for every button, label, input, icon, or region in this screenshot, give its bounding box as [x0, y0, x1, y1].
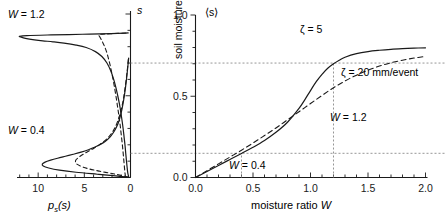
right-w04-var: W — [229, 159, 239, 171]
right-x-tick-label: 2.0 — [418, 182, 433, 194]
right-x-tick-label: 0.0 — [188, 182, 203, 194]
right-y-tick-label: 0.0 — [173, 171, 188, 183]
right-corner-label: ⟨s⟩ — [205, 6, 218, 18]
right-w04-value: = 0.4 — [239, 159, 266, 171]
left-w12-value: = 1.2 — [18, 8, 45, 20]
right-x-tick-label: 1.5 — [361, 182, 376, 194]
right-x-tick-label: 1.0 — [303, 182, 318, 194]
right-w12-guide-label: W = 1.2 — [330, 111, 367, 123]
right-y-tick-label: 0.5 — [173, 90, 188, 102]
left-y-axis-label: s — [137, 4, 142, 16]
zeta20-label: ζ = 20 mm/event — [341, 66, 418, 78]
right-x-axis-label-text: moisture ratio — [251, 199, 321, 211]
right-w12-value: = 1.2 — [340, 111, 367, 123]
left-x-axis-label: ps(s) — [48, 199, 71, 214]
figure-container: 1050 0.00.51.00.00.51.01.52.0 W = 1.2 W … — [0, 0, 446, 223]
left-w04-var: W — [8, 124, 18, 136]
left-w12-label: W = 1.2 — [8, 8, 45, 20]
right-w04-guide-label: W = 0.4 — [229, 159, 266, 171]
right-mean-panel: 0.00.51.00.00.51.01.52.0 — [173, 9, 433, 194]
left-x-tick-label: 5 — [81, 182, 87, 194]
left-curve-0 — [19, 33, 128, 177]
right-x-axis-label-var: W — [321, 199, 331, 211]
left-curve-2 — [42, 58, 128, 177]
left-x-tick-label: 10 — [32, 182, 44, 194]
right-x-tick-label: 0.5 — [246, 182, 261, 194]
right-y-axis-label: soil moisture — [172, 0, 184, 59]
right-w12-var: W — [330, 111, 340, 123]
left-x-tick-label: 0 — [128, 182, 134, 194]
zeta5-label: ζ = 5 — [300, 23, 322, 35]
right-x-axis-label: moisture ratio W — [251, 199, 331, 211]
left-w04-label: W = 0.4 — [8, 124, 45, 136]
left-x-axis-label-arg: (s) — [58, 199, 71, 211]
figure-svg: 1050 0.00.51.00.00.51.01.52.0 — [0, 0, 446, 223]
left-w12-var: W — [8, 8, 18, 20]
left-w04-value: = 0.4 — [18, 124, 45, 136]
